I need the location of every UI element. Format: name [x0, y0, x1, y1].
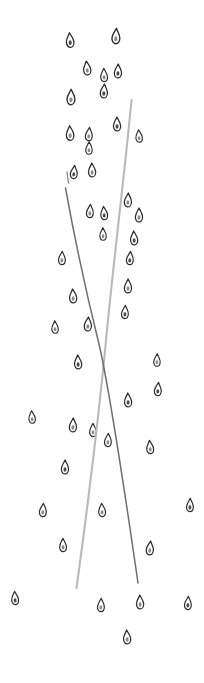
raindrop-icon [86, 142, 93, 155]
raindrop-icon [59, 538, 66, 551]
sketch-surface [0, 0, 204, 683]
raindrop-icon [112, 28, 121, 44]
raindrop-icon [130, 231, 138, 245]
raindrop-icon [52, 321, 59, 334]
raindrop-icon [69, 418, 77, 432]
raindrop-icon [113, 117, 120, 131]
raindrop-icon [123, 630, 131, 644]
raindrop-icon [98, 503, 106, 517]
raindrop-icon [100, 68, 107, 82]
raindrop-icon [136, 595, 144, 609]
raindrop-icon [186, 498, 193, 512]
raindrop-icon [100, 228, 107, 241]
raindrop-icon [97, 598, 104, 612]
raindrop-icon [66, 32, 75, 47]
raindrop-icon [88, 163, 96, 177]
raindrop-icon [121, 305, 129, 319]
trajectory-layer [66, 100, 139, 588]
raindrop-icon [28, 410, 35, 423]
raindrop-icon [154, 382, 162, 396]
raindrop-icon [100, 84, 108, 98]
raindrop-icon [100, 206, 108, 220]
raindrop-icon [114, 64, 122, 78]
rain-sketch-canvas [0, 0, 204, 683]
raindrop-icon [11, 591, 19, 605]
light-trajectory [77, 100, 132, 588]
raindrop-icon [86, 204, 94, 218]
raindrop-icon [104, 433, 112, 447]
raindrop-icon [70, 165, 78, 179]
raindrop-icon [67, 89, 75, 105]
raindrop-icon [61, 460, 68, 474]
raindrop-icon [124, 193, 132, 207]
raindrop-icon [135, 208, 142, 222]
raindrop-icon [39, 503, 47, 517]
raindrop-icon [154, 354, 161, 367]
stray-tick [67, 172, 69, 183]
raindrop-icon [124, 393, 132, 407]
raindrop-icon [135, 129, 142, 142]
raindrop-icon [126, 251, 134, 265]
raindrop-icon [83, 61, 92, 76]
raindrop-icon [58, 251, 65, 265]
raindrop-icon [84, 317, 92, 331]
raindrop-icon [184, 596, 192, 610]
raindrop-icon [146, 440, 154, 454]
raindrop-icon [124, 279, 131, 293]
stray-mark-layer [67, 172, 69, 183]
raindrop-icon [69, 289, 77, 303]
raindrop-icon [146, 541, 154, 556]
raindrop-icon [74, 355, 82, 369]
raindrop-icon [66, 125, 74, 140]
raindrop-icon [85, 127, 93, 141]
raindrop-layer [11, 28, 194, 644]
